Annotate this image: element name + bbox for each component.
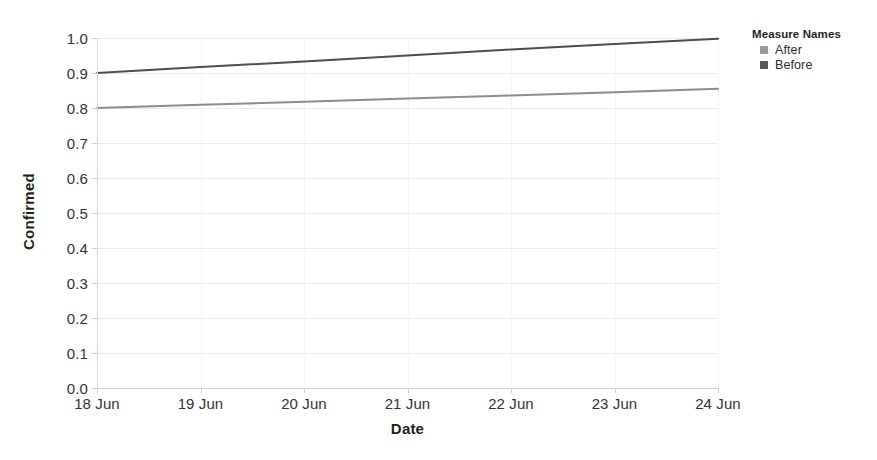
y-axis-tick-label: 0.4 (28, 241, 88, 256)
legend: Measure Names AfterBefore (752, 28, 872, 73)
y-axis-tick-mark (92, 108, 97, 109)
x-axis-tick-mark (718, 389, 719, 393)
y-axis-tick-mark (92, 283, 97, 284)
legend-swatch-icon (760, 46, 768, 54)
y-axis-tick-label: 0.3 (28, 276, 88, 291)
legend-item-label: Before (775, 59, 812, 72)
legend-item-after[interactable]: After (760, 44, 872, 57)
legend-items: AfterBefore (752, 44, 872, 71)
y-axis-tick-label: 0.5 (28, 206, 88, 221)
x-axis-tick-mark (511, 389, 512, 393)
x-axis-tick-mark (408, 389, 409, 393)
y-axis-tick-mark (92, 38, 97, 39)
x-axis-tick-label: 20 Jun (249, 396, 359, 411)
y-axis-tick-label: 0.0 (28, 381, 88, 396)
y-axis-tick-label: 0.8 (28, 101, 88, 116)
y-axis-tick-mark (92, 143, 97, 144)
x-axis-tick-mark (304, 389, 305, 393)
y-axis-tick-label: 0.7 (28, 136, 88, 151)
y-axis-tick-mark (92, 353, 97, 354)
legend-item-before[interactable]: Before (760, 59, 872, 72)
vertical-gridline (718, 38, 719, 388)
legend-item-label: After (775, 44, 802, 57)
legend-swatch-icon (760, 61, 768, 69)
plot-area (97, 38, 718, 388)
y-axis-tick-mark (92, 213, 97, 214)
x-axis-tick-mark (615, 389, 616, 393)
y-axis-tick-mark (92, 73, 97, 74)
y-axis-tick-label: 0.2 (28, 311, 88, 326)
x-axis-tick-mark (201, 389, 202, 393)
y-axis-tick-mark (92, 178, 97, 179)
x-axis-tick-label: 18 Jun (42, 396, 152, 411)
y-axis-tick-label: 0.9 (28, 66, 88, 81)
y-axis-tick-label: 1.0 (28, 31, 88, 46)
series-line-before (97, 39, 718, 73)
x-axis-tick-label: 24 Jun (663, 396, 773, 411)
y-axis-tick-mark (92, 318, 97, 319)
y-axis-tick-label: 0.6 (28, 171, 88, 186)
x-axis-tick-label: 19 Jun (146, 396, 256, 411)
y-axis-title: Confirmed (20, 210, 37, 250)
x-axis-tick-label: 21 Jun (353, 396, 463, 411)
x-axis-tick-label: 23 Jun (560, 396, 670, 411)
line-chart: 1.00.90.80.70.60.50.40.30.20.10.0 18 Jun… (0, 0, 877, 460)
y-axis-line (97, 38, 98, 389)
x-axis-tick-label: 22 Jun (456, 396, 566, 411)
y-axis-tick-label: 0.1 (28, 346, 88, 361)
y-axis-tick-mark (92, 248, 97, 249)
legend-title: Measure Names (752, 28, 872, 40)
series-line-after (97, 89, 718, 108)
series-lines (97, 38, 718, 388)
x-axis-title: Date (97, 420, 718, 437)
x-axis-tick-mark (97, 389, 98, 393)
